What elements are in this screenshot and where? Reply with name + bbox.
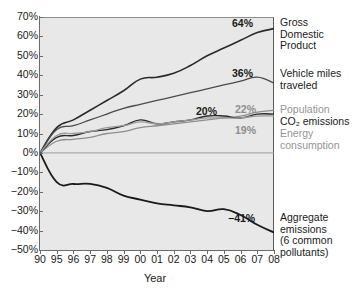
x-tick-mark — [124, 250, 125, 254]
y-tick-mark — [39, 134, 43, 135]
value-callout: 22% — [235, 104, 256, 115]
series-label-line: traveled — [280, 80, 341, 92]
series-label-line: Energy — [280, 128, 340, 140]
series-label-line: Population — [280, 104, 330, 116]
y-tick-mark — [39, 75, 43, 76]
series-label-line: consumption — [280, 140, 340, 152]
y-tick-label: −20% — [2, 186, 38, 196]
y-tick-label: −10% — [2, 166, 38, 176]
x-tick-mark — [90, 250, 91, 254]
series-label: Aggregateemissions(6 commonpollutants) — [280, 212, 333, 258]
y-tick-label: −40% — [2, 225, 38, 235]
series-label: CO₂ emissions — [280, 116, 349, 128]
value-callout: 64% — [232, 18, 253, 29]
x-tick-mark — [174, 250, 175, 254]
y-tick-mark — [39, 95, 43, 96]
y-tick-mark — [39, 211, 43, 212]
series-line — [40, 77, 274, 153]
series-label-line: Product — [280, 40, 324, 52]
x-tick-mark — [40, 250, 41, 254]
value-callout: 20% — [196, 106, 217, 117]
y-tick-label: 50% — [2, 50, 38, 60]
y-tick-label: 10% — [2, 128, 38, 138]
series-label-line: Vehicle miles — [280, 68, 341, 80]
y-tick-mark — [39, 153, 43, 154]
y-tick-label: 0% — [2, 147, 38, 157]
y-tick-mark — [39, 231, 43, 232]
series-label: GrossDomesticProduct — [280, 17, 324, 52]
y-tick-mark — [39, 114, 43, 115]
x-tick-mark — [57, 250, 58, 254]
series-label: Vehicle milestraveled — [280, 68, 341, 91]
series-label: Population — [280, 104, 330, 116]
x-tick-mark — [107, 250, 108, 254]
x-tick-mark — [274, 250, 275, 254]
y-tick-label: 30% — [2, 89, 38, 99]
chart-root: 70%60%50%40%30%20%10%0%−10%−20%−30%−40%−… — [0, 0, 352, 298]
x-tick-mark — [140, 250, 141, 254]
x-tick-mark — [257, 250, 258, 254]
x-axis-title: Year — [0, 272, 310, 284]
y-tick-label: 40% — [2, 69, 38, 79]
x-tick-mark — [157, 250, 158, 254]
value-callout: 36% — [232, 68, 253, 79]
y-tick-mark — [39, 56, 43, 57]
x-tick-mark — [241, 250, 242, 254]
series-label-line: Aggregate — [280, 212, 333, 224]
x-tick-mark — [207, 250, 208, 254]
x-tick-mark — [190, 250, 191, 254]
x-tick-mark — [73, 250, 74, 254]
y-tick-mark — [39, 36, 43, 37]
x-tick-mark — [224, 250, 225, 254]
series-label-line: pollutants) — [280, 247, 333, 259]
y-tick-label: 60% — [2, 30, 38, 40]
series-label: Energyconsumption — [280, 128, 340, 151]
y-tick-mark — [39, 172, 43, 173]
value-callout: 19% — [235, 125, 256, 136]
y-tick-label: 70% — [2, 11, 38, 21]
y-tick-label: 20% — [2, 108, 38, 118]
y-tick-mark — [39, 17, 43, 18]
series-label-line: (6 common — [280, 235, 333, 247]
series-label-line: Gross — [280, 17, 324, 29]
value-callout: −41% — [228, 213, 255, 224]
series-label-line: CO₂ emissions — [280, 116, 349, 128]
y-tick-mark — [39, 192, 43, 193]
y-tick-label: −30% — [2, 205, 38, 215]
